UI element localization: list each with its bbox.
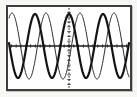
calculator-graph-screenshot — [0, 0, 137, 97]
sine-wave-graph — [0, 0, 137, 97]
